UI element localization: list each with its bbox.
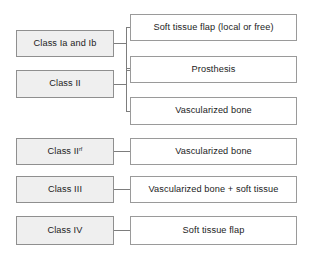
class-box-class-iv[interactable]: Class IV [16, 216, 114, 245]
treatment-label-soft-tissue-flap: Soft tissue flap [183, 226, 245, 235]
class-label-class-ii: Class II [49, 79, 80, 88]
treatment-box-prosthesis[interactable]: Prosthesis [130, 56, 297, 83]
treatment-box-soft-tissue-flap[interactable]: Soft tissue flap [130, 216, 297, 245]
treatment-label-vascularized-bone-2: Vascularized bone [175, 147, 252, 156]
treatment-label-vascularized-bone-1: Vascularized bone [175, 106, 252, 115]
treatment-label-soft-tissue-flap-local-or-free: Soft tissue flap (local or free) [153, 23, 273, 32]
class-box-class-ii-rf[interactable]: Class IIrf [16, 138, 114, 165]
connector-class-ii-spine [126, 68, 127, 112]
class-label-class-iii: Class III [48, 185, 82, 194]
treatment-box-vascularized-bone-1[interactable]: Vascularized bone [130, 97, 297, 125]
connector-class-ii-stem [113, 84, 126, 85]
treatment-label-vascularized-bone-plus-soft-tissue: Vascularized bone + soft tissue [149, 185, 279, 194]
class-box-class-iii[interactable]: Class III [16, 176, 114, 203]
class-label-class-ia-ib: Class Ia and Ib [34, 39, 97, 48]
class-box-class-ia-ib[interactable]: Class Ia and Ib [16, 30, 114, 57]
diagram-canvas: Class Ia and Ib Class II Class IIrf Clas… [0, 0, 312, 265]
class-label-class-iv: Class IV [47, 226, 82, 235]
connector-class-iii-to-vascularized-bone-plus-soft-tissue [113, 189, 131, 190]
treatment-box-vascularized-bone-plus-soft-tissue[interactable]: Vascularized bone + soft tissue [130, 176, 297, 203]
connector-class-ii-rf-to-vascularized-bone [113, 151, 131, 152]
connector-class-ia-ib-spine [126, 27, 127, 71]
treatment-box-vascularized-bone-2[interactable]: Vascularized bone [130, 138, 297, 165]
connector-class-ia-ib-stem [113, 43, 126, 44]
treatment-box-soft-tissue-flap-local-or-free[interactable]: Soft tissue flap (local or free) [130, 14, 297, 41]
connector-class-iv-to-soft-tissue-flap [113, 230, 131, 231]
treatment-label-prosthesis: Prosthesis [192, 65, 236, 74]
class-label-class-ii-rf: Class II [48, 147, 79, 156]
class-box-class-ii[interactable]: Class II [16, 70, 114, 98]
